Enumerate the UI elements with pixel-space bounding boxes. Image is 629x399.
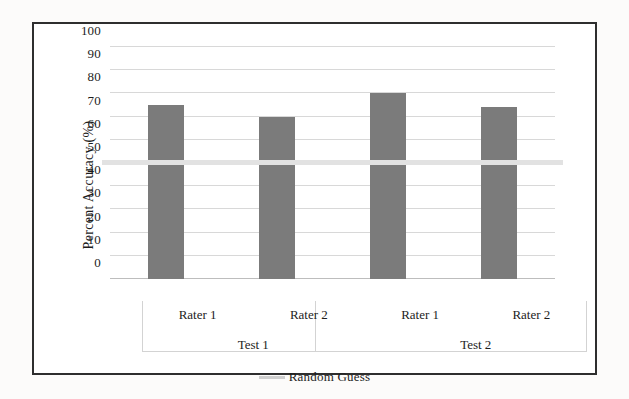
bar	[370, 93, 406, 279]
legend-line-marker-icon	[259, 376, 285, 379]
y-axis-tick-label: 100	[81, 23, 101, 39]
category-axis-label: Rater 2	[512, 307, 550, 323]
y-axis-tick-label: 30	[88, 185, 101, 201]
group-label-row: Test 1Test 2	[142, 337, 587, 359]
y-axis-tick-label: 60	[88, 116, 101, 132]
plot-wrapper: Percent Accuracy (%) 1009080706050403020…	[34, 24, 595, 373]
group-axis-label: Test 1	[238, 337, 269, 353]
y-axis-tick-label: 90	[88, 46, 101, 62]
category-axis-label: Rater 1	[401, 307, 439, 323]
bar	[259, 117, 295, 279]
y-axis-tick-label: 50	[88, 139, 101, 155]
legend-item-label: Random Guess	[289, 369, 370, 385]
chart-screenshot: Percent Accuracy (%) 1009080706050403020…	[0, 0, 629, 399]
y-axis-tick-label: 10	[88, 232, 101, 248]
chart-legend: Random Guess	[34, 369, 595, 385]
group-axis-label: Test 2	[460, 337, 491, 353]
category-axis-label: Rater 2	[290, 307, 328, 323]
gridline	[110, 46, 555, 47]
category-label-row: Rater 1Rater 2Rater 1Rater 2	[142, 307, 587, 329]
y-axis-tick-label: 80	[88, 69, 101, 85]
bar	[148, 105, 184, 279]
y-axis-tick-label: 40	[88, 162, 101, 178]
plot-area: 1009080706050403020100	[110, 47, 555, 279]
y-axis-tick-label: 20	[88, 209, 101, 225]
reference-line-random-guess	[102, 160, 563, 165]
category-axis-label: Rater 1	[179, 307, 217, 323]
y-axis-tick-label: 0	[94, 255, 101, 271]
gridline	[110, 69, 555, 70]
figure-frame: Percent Accuracy (%) 1009080706050403020…	[32, 22, 597, 375]
bar	[481, 107, 517, 279]
y-axis-tick-label: 70	[88, 93, 101, 109]
gridline	[110, 92, 555, 93]
